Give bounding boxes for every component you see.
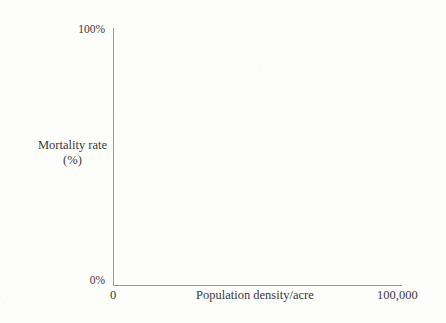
- y-axis-title-line-2: (%): [38, 153, 107, 168]
- y-axis-title-line-1: Mortality rate: [38, 138, 107, 153]
- y-axis-max-tick-label: 100%: [78, 23, 105, 35]
- x-axis-min-tick-label: 0: [110, 289, 116, 303]
- x-axis-line: [113, 285, 402, 286]
- x-axis-title: Population density/acre: [196, 289, 314, 303]
- x-axis-max-tick-label: 100,000: [377, 289, 418, 303]
- mortality-vs-population-density-chart: 100% 0% Mortality rate (%) Population de…: [0, 0, 446, 323]
- y-axis-title: Mortality rate (%): [38, 138, 107, 167]
- y-axis-line: [113, 28, 114, 286]
- y-axis-min-tick-label: 0%: [90, 274, 105, 286]
